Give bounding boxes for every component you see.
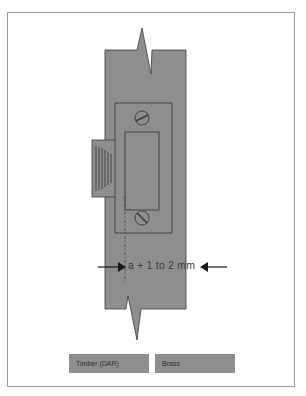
strike-plate-diagram — [0, 0, 306, 396]
screw-bottom-icon — [135, 211, 149, 225]
strike-lip — [92, 140, 115, 197]
legend-brass: Brass — [155, 354, 235, 373]
screw-top-icon — [135, 111, 149, 125]
dimension-arrow-right-icon — [200, 262, 227, 272]
dimension-label: a + 1 to 2 mm — [128, 259, 195, 271]
legend-timber: Timber (DAR) — [69, 354, 149, 373]
strike-recess — [125, 132, 159, 210]
